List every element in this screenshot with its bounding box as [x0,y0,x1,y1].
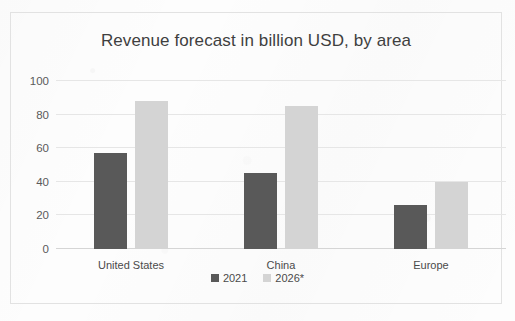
chart-legend: 20212026* [0,272,515,284]
bar [285,106,318,249]
y-axis-tick-label: 40 [36,176,49,188]
bar [244,173,277,249]
legend-label: 2021 [223,272,247,284]
y-axis-tick-label: 100 [30,75,49,87]
chart-title: Revenue forecast in billion USD, by area [11,31,501,51]
plot-area: 020406080100 United StatesChinaEurope [56,81,506,249]
x-axis-category-label: Europe [356,259,506,271]
bar-group: Europe [356,81,506,249]
bar [394,205,427,249]
legend-label: 2026* [275,272,304,284]
x-axis-category-label: China [206,259,356,271]
bar [94,153,127,249]
y-axis-tick-label: 60 [36,142,49,154]
legend-swatch-icon [211,274,219,282]
legend-item: 2021 [211,272,247,284]
bar-group: United States [56,81,206,249]
bar [435,182,468,249]
chart-frame: Revenue forecast in billion USD, by area… [10,12,502,304]
bar [135,101,168,249]
y-axis-tick-label: 0 [43,243,49,255]
x-axis-category-label: United States [56,259,206,271]
y-axis-tick-label: 80 [36,109,49,121]
legend-item: 2026* [263,272,304,284]
bar-group: China [206,81,356,249]
legend-swatch-icon [263,274,271,282]
y-axis-tick-label: 20 [36,209,49,221]
